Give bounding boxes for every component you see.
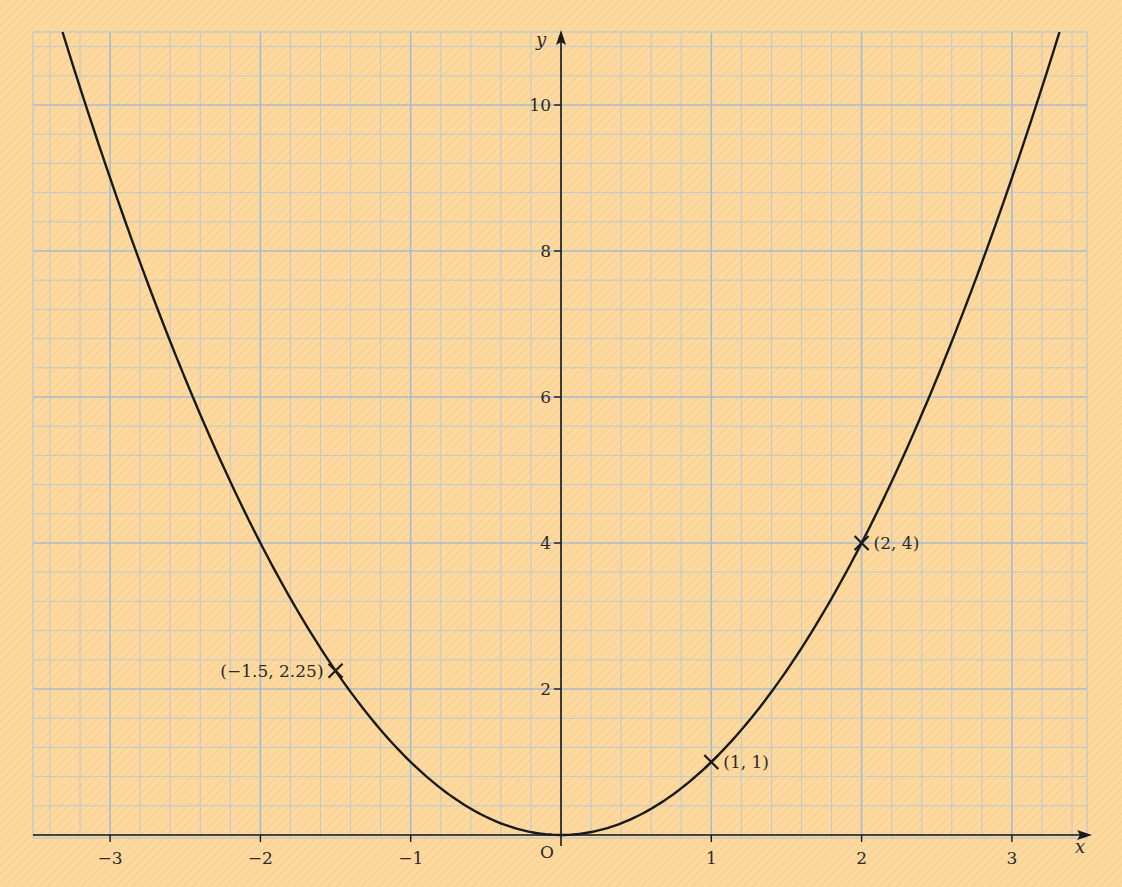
parabola-plot: −3−2−1123246810 (−1.5, 2.25)(1, 1)(2, 4)…: [0, 0, 1122, 887]
y-axis-label: y: [535, 29, 547, 50]
origin-label: O: [540, 842, 554, 862]
point-label: (2, 4): [874, 533, 920, 553]
x-tick-label: −1: [398, 848, 423, 868]
point-label: (1, 1): [723, 752, 769, 772]
x-tick-label: −2: [248, 848, 273, 868]
y-tick-label: 10: [529, 95, 551, 115]
x-tick-label: 3: [1006, 848, 1017, 868]
graph-figure: −3−2−1123246810 (−1.5, 2.25)(1, 1)(2, 4)…: [0, 0, 1122, 887]
x-tick-label: −3: [98, 848, 123, 868]
y-tick-label: 8: [540, 241, 551, 261]
y-tick-label: 4: [540, 533, 551, 553]
y-tick-label: 6: [540, 387, 551, 407]
point-label: (−1.5, 2.25): [220, 661, 323, 681]
x-tick-label: 2: [856, 848, 867, 868]
y-tick-label: 2: [540, 679, 551, 699]
x-tick-label: 1: [706, 848, 717, 868]
x-axis-label: x: [1075, 836, 1085, 857]
